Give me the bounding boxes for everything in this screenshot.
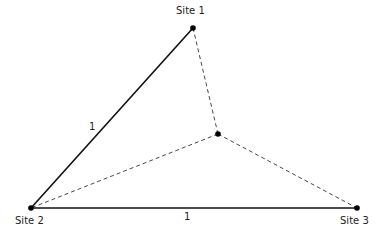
center-node xyxy=(215,131,221,137)
edge-label-site1-site2: 1 xyxy=(89,121,95,132)
dashed-edge-center-site2 xyxy=(31,134,218,208)
site3-label: Site 3 xyxy=(340,215,369,226)
site2-node xyxy=(28,205,34,211)
site2-label: Site 2 xyxy=(15,215,44,226)
site1-node xyxy=(190,25,196,31)
dashed-edge-center-site1 xyxy=(193,28,218,134)
network-graph xyxy=(0,0,387,236)
site3-node xyxy=(354,205,360,211)
edge-site1-site2 xyxy=(31,28,193,208)
diagram-canvas: Site 1 Site 2 Site 3 1 1 xyxy=(0,0,387,236)
site1-label: Site 1 xyxy=(176,5,205,16)
edge-label-site2-site3: 1 xyxy=(184,211,190,222)
dashed-edge-center-site3 xyxy=(218,134,357,208)
